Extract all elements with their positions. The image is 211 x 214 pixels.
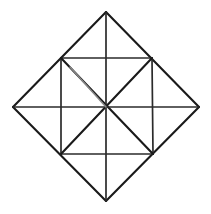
geometric-figure-svg [0, 0, 211, 214]
faded-stroke-group [70, 67, 106, 107]
figure-canvas [0, 0, 211, 214]
square-diagonal-nwse-faded-segment-line [70, 67, 106, 107]
square-edge-right-line [152, 58, 153, 154]
diamond-edge-top-left-line [13, 12, 106, 107]
